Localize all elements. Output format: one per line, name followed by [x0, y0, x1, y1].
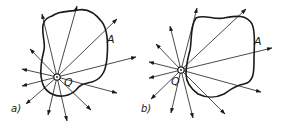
charge-label-b: Q — [171, 75, 180, 88]
surface-point-label-a: A — [106, 33, 115, 46]
surface-point-label-b: A — [253, 35, 262, 48]
figure-canvas: Q A a) Q A b) — [0, 0, 287, 131]
panel-caption-a: a) — [11, 103, 21, 114]
charge-label-a: Q — [64, 76, 73, 89]
panel-caption-b: b) — [141, 103, 151, 114]
panel-a: Q A a) — [11, 6, 136, 121]
closed-surface-a — [41, 10, 108, 96]
panel-b: Q A b) — [141, 8, 272, 118]
field-lines-a — [22, 6, 136, 121]
